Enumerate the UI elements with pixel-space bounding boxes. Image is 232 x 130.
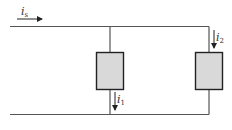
element-2-box [196,53,223,90]
element-1-box [97,53,124,90]
branch1-current-label: i1 [117,93,125,107]
source-current-label: is [21,5,29,19]
branch2-current-label: i2 [216,31,224,45]
circuit-diagram: is i2 i1 [0,0,232,130]
